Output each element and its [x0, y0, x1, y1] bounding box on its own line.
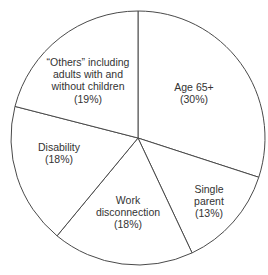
pie-label-line: “Others” including	[32, 56, 144, 68]
pie-label-single-parent: Single parent (13%)	[176, 183, 242, 220]
pie-label-line: parent	[176, 195, 242, 207]
pie-label-line: disconnection	[78, 206, 178, 218]
pie-label-others: “Others” including adults with and witho…	[32, 56, 144, 105]
pie-chart-figure: Age 65+ (30%) Single parent (13%) Work d…	[0, 0, 268, 275]
pie-label-line: adults with and	[32, 68, 144, 80]
pie-label-line: (18%)	[78, 218, 178, 230]
pie-label-line: Work	[78, 194, 178, 206]
pie-label-disability: Disability (18%)	[17, 141, 101, 165]
pie-label-line: Disability	[17, 141, 101, 153]
pie-label-work-disconnection: Work disconnection (18%)	[78, 194, 178, 231]
pie-label-line: (13%)	[176, 207, 242, 219]
pie-label-age-65-plus: Age 65+ (30%)	[154, 81, 234, 105]
pie-label-line: (19%)	[32, 93, 144, 105]
pie-label-line: Age 65+	[154, 81, 234, 93]
pie-label-line: (30%)	[154, 93, 234, 105]
pie-label-line: Single	[176, 183, 242, 195]
pie-chart-svg	[0, 0, 268, 275]
pie-label-line: (18%)	[17, 153, 101, 165]
pie-label-line: without children	[32, 80, 144, 92]
